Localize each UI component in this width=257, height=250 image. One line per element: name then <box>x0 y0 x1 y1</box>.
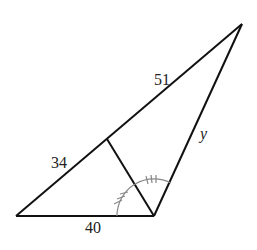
left-long-side <box>16 24 242 216</box>
triangle-outline <box>16 24 242 216</box>
label-34: 34 <box>51 154 67 171</box>
triple-tick-left <box>114 192 128 204</box>
triangle-diagram: 51 34 40 y <box>0 0 257 250</box>
label-40: 40 <box>85 219 101 236</box>
right-side <box>154 24 242 216</box>
label-y: y <box>198 125 208 143</box>
label-51: 51 <box>154 71 170 88</box>
